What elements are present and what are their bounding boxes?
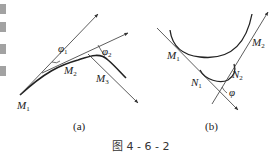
label-phi1: φ1 [58,42,68,56]
figure-svg: φ1 φ2 M1 M2 M3 (a) M1 M2 N1 N2 φ (b) 图 4… [0,0,279,163]
label-m2-b: M2 [251,36,265,50]
angle-arc-phi1 [52,61,60,63]
label-phi2: φ2 [102,45,112,59]
label-n2: N2 [231,68,243,82]
label-m1-b: M1 [166,49,180,63]
panel-a-label: (a) [73,120,86,133]
label-n1: N1 [190,76,202,90]
label-phi: φ [229,86,235,98]
figure-caption: 图 4 - 6 - 2 [112,140,169,153]
angle-arc-phi [222,87,227,93]
tangent-at-m2-n2 [212,12,268,104]
secant-m1-m2 [20,14,98,95]
panel-b-label: (b) [205,120,218,133]
panel-a: φ1 φ2 M1 M2 M3 (a) [16,14,138,133]
label-m3: M3 [95,72,109,86]
label-m2: M2 [63,64,77,78]
curve-b-lower [200,64,235,82]
label-m1: M1 [16,99,30,113]
curve-b-upper [170,14,252,58]
panel-b: M1 M2 N1 N2 φ (b) [157,12,268,133]
tangent-at-m1-n1 [157,28,238,110]
